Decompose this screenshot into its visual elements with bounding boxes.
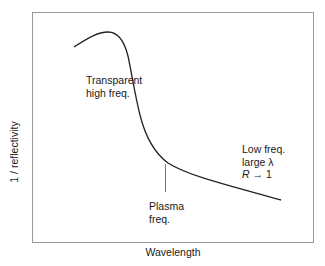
annotation-line: high freq. (86, 87, 142, 100)
reflectivity-symbol: R (242, 168, 250, 180)
annotation-line: Plasma (149, 200, 184, 213)
chart-canvas (0, 0, 325, 266)
annotation-line: freq. (149, 213, 184, 226)
annotation-transparent: Transparent high freq. (86, 74, 142, 99)
arrow-one: → 1 (250, 168, 272, 180)
annotation-low-freq: Low freq. large λ R → 1 (242, 143, 285, 181)
x-axis-label: Wavelength (145, 246, 200, 258)
annotation-line: Low freq. (242, 143, 285, 156)
y-axis-label: 1 / reflectivity (8, 121, 20, 182)
annotation-line: large λ (242, 156, 285, 169)
annotation-line: R → 1 (242, 168, 285, 181)
annotation-plasma-freq: Plasma freq. (149, 200, 184, 225)
annotation-line: Transparent (86, 74, 142, 87)
